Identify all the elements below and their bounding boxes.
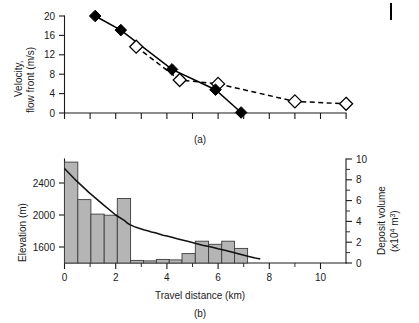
panel-b-ytick-label-right-0: 0 — [356, 258, 362, 269]
panel-b-x-ticks — [65, 263, 321, 269]
panel-b-xtick-label-4: 4 — [164, 272, 170, 283]
panel-b-ytick-label-2400: 2400 — [33, 178, 56, 189]
panel-a-ytick-label-20: 20 — [44, 11, 56, 22]
panel-b-ytick-label-2000: 2000 — [33, 210, 56, 221]
marker-open-diamond — [130, 40, 143, 53]
panel-b-y-tick-labels-right: 0 2 4 6 8 10 — [356, 154, 368, 269]
panel-b-x-tick-labels: 0 2 4 6 8 10 — [62, 272, 327, 283]
panel-b-ytick-label-right-4: 4 — [356, 216, 362, 227]
marker-open-diamond — [288, 95, 301, 108]
panel-b: Elevation (m) 1600 2000 2400 — [17, 154, 400, 320]
panel-b-ytick-label-right-10: 10 — [356, 154, 368, 165]
panel-b-bars — [65, 162, 248, 263]
marker-open-diamond — [340, 97, 353, 110]
panel-b-xtick-label-2: 2 — [113, 272, 119, 283]
bar — [169, 260, 182, 263]
bar — [117, 199, 130, 264]
ylabel-right-end: ) — [389, 210, 400, 213]
panel-a-open-diamond-markers — [130, 40, 353, 110]
panel-b-ylabel-right-line2: (x104 m3) — [389, 210, 400, 252]
bar — [156, 259, 169, 263]
panel-a-y-ticks — [59, 16, 65, 113]
panel-b-xtick-label-10: 10 — [315, 272, 327, 283]
panel-b-ylabel-right: Deposit volume (x104 m3) — [376, 186, 400, 255]
panel-a-ytick-label-0: 0 — [49, 108, 55, 119]
panel-b-ylabel-right-line1: Deposit volume — [376, 186, 387, 255]
panel-a-y-tick-labels: 0 4 8 12 16 20 — [44, 11, 56, 119]
panel-a-ytick-label-12: 12 — [44, 49, 56, 60]
panel-a-ylabel-line1: Velocity, — [13, 61, 24, 98]
panel-b-xtick-label-6: 6 — [215, 272, 221, 283]
ylabel-right-pre: (x10 — [389, 232, 400, 252]
bar — [144, 261, 157, 263]
panel-a-ytick-label-4: 4 — [49, 88, 55, 99]
panel-b-xlabel: Travel distance (km) — [155, 290, 245, 301]
panel-b-ylabel-left: Elevation (m) — [17, 203, 28, 262]
bar — [78, 200, 91, 263]
panel-a-x-ticks — [65, 113, 347, 119]
panel-b-y-ticks-right — [346, 159, 352, 263]
panel-b-xtick-label-0: 0 — [62, 272, 68, 283]
panel-b-y-ticks-left — [59, 183, 65, 247]
bar — [182, 254, 195, 263]
bar — [91, 214, 104, 263]
figure-svg: Velocity, flow front (m/s) 0 4 8 12 — [0, 0, 419, 323]
panel-b-ytick-label-right-2: 2 — [356, 237, 362, 248]
panel-a-ytick-label-16: 16 — [44, 30, 56, 41]
bar — [65, 162, 78, 263]
panel-a: Velocity, flow front (m/s) 0 4 8 12 — [13, 10, 353, 145]
panel-b-ytick-label-right-8: 8 — [356, 174, 362, 185]
bar — [104, 215, 117, 263]
panel-a-ytick-label-8: 8 — [49, 69, 55, 80]
panel-b-label: (b) — [194, 308, 206, 319]
panel-a-ylabel-line2: flow front (m/s) — [25, 47, 36, 113]
panel-b-ytick-label-1600: 1600 — [33, 242, 56, 253]
panel-a-series-modelled-line — [136, 47, 346, 104]
ylabel-right-post: m — [389, 218, 400, 229]
bar — [131, 260, 144, 263]
panel-b-xtick-label-8: 8 — [267, 272, 273, 283]
panel-a-label: (a) — [194, 134, 206, 145]
marker-filled-diamond — [89, 10, 101, 22]
panel-b-y-tick-labels-left: 1600 2000 2400 — [33, 178, 56, 253]
panel-a-ylabel: Velocity, flow front (m/s) — [13, 47, 36, 113]
scientific-figure: Velocity, flow front (m/s) 0 4 8 12 — [0, 0, 419, 323]
panel-b-ytick-label-right-6: 6 — [356, 195, 362, 206]
